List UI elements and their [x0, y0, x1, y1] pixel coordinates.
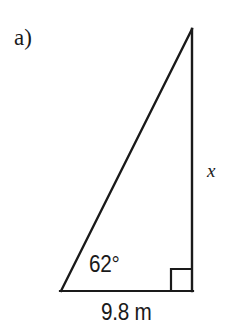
hypotenuse-line	[61, 29, 192, 291]
unknown-side-label: x	[207, 161, 215, 180]
part-label: a)	[14, 26, 32, 49]
figure-container: a) 62° 9.8 m x	[0, 0, 234, 328]
base-length-label: 9.8 m	[101, 301, 151, 324]
right-angle-marker-icon	[171, 269, 192, 291]
angle-measure-label: 62°	[89, 253, 120, 276]
right-triangle-diagram	[0, 0, 234, 328]
